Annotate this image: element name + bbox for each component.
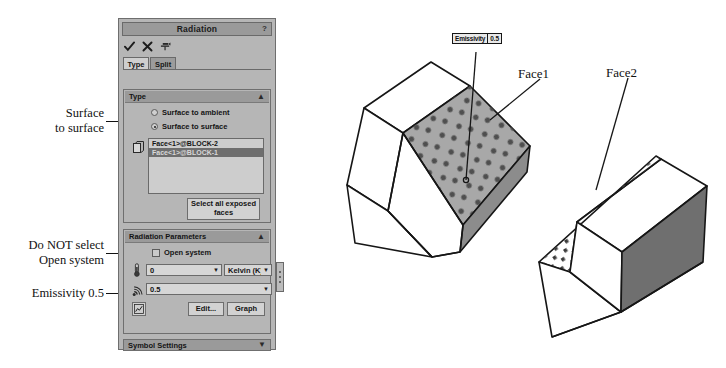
face1-label: Face1 [518,66,549,82]
emissivity-callout[interactable]: Emissivity 0.5 [452,33,502,44]
emissivity-callout-key: Emissivity [453,34,488,43]
block-2-solid [539,156,707,337]
leader-face1 [490,79,540,120]
model-geometry [0,0,726,368]
screenshot-root: Surface to surface Do NOT select Open sy… [0,0,726,368]
emissivity-callout-value: 0.5 [488,34,501,43]
leader-face2 [596,78,628,190]
block-1-solid [347,62,530,257]
face2-label: Face2 [606,65,637,81]
